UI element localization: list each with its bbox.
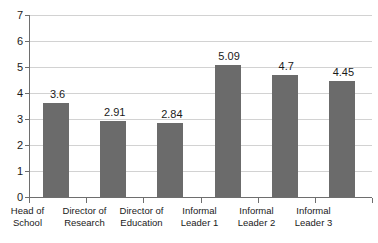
category-label-line-2: Research <box>56 217 113 229</box>
y-tick-label-7: 7 <box>1 10 23 21</box>
category-label-head-of-school: Head of School <box>0 205 56 229</box>
category-label-line-1: Director of <box>56 205 113 217</box>
category-label-director-of-education: Director of Education <box>113 205 170 229</box>
bar-informal-leader-2[interactable] <box>272 75 298 197</box>
x-tick-2 <box>143 198 144 203</box>
gridline-2 <box>29 145 372 146</box>
x-tick-0 <box>29 198 30 203</box>
bar-value-director-of-research: 2.91 <box>92 107 138 118</box>
category-label-director-of-research: Director of Research <box>56 205 113 229</box>
gridline-3 <box>29 119 372 120</box>
bar-value-informal-leader-1: 5.09 <box>206 51 252 62</box>
y-axis-line <box>29 15 30 198</box>
x-tick-6 <box>372 198 373 203</box>
gridline-6 <box>29 41 372 42</box>
category-label-line-1: Director of <box>113 205 170 217</box>
category-label-informal-leader-1: Informal Leader 1 <box>171 205 228 229</box>
bar-chart: 7 6 5 4 3 2 1 0 <box>0 0 378 243</box>
category-label-line-1: Informal <box>171 205 228 217</box>
x-tick-1 <box>86 198 87 203</box>
x-tick-3 <box>201 198 202 203</box>
x-tick-5 <box>315 198 316 203</box>
bar-director-of-education[interactable] <box>157 123 183 197</box>
bar-informal-leader-3[interactable] <box>329 81 355 197</box>
category-label-line-2: Leader 3 <box>285 217 342 229</box>
bar-value-informal-leader-3: 4.45 <box>320 67 366 78</box>
category-label-line-2: Leader 1 <box>171 217 228 229</box>
y-tick-label-4: 4 <box>1 88 23 99</box>
y-tick-label-6: 6 <box>1 36 23 47</box>
y-tick-label-3: 3 <box>1 114 23 125</box>
y-tick-label-2: 2 <box>1 140 23 151</box>
gridline-7 <box>29 15 372 16</box>
bar-director-of-research[interactable] <box>100 121 126 197</box>
x-tick-4 <box>258 198 259 203</box>
category-label-line-2: Education <box>113 217 170 229</box>
bar-value-head-of-school: 3.6 <box>35 89 81 100</box>
plot-area <box>29 15 372 197</box>
category-label-line-1: Head of <box>0 205 56 217</box>
y-tick-label-1: 1 <box>1 166 23 177</box>
category-label-line-1: Informal <box>285 205 342 217</box>
gridline-1 <box>29 171 372 172</box>
category-label-line-1: Informal <box>228 205 285 217</box>
category-label-line-2: Leader 2 <box>228 217 285 229</box>
category-label-informal-leader-2: Informal Leader 2 <box>228 205 285 229</box>
bar-value-director-of-education: 2.84 <box>149 109 195 120</box>
bar-value-informal-leader-2: 4.7 <box>263 61 309 72</box>
bar-head-of-school[interactable] <box>43 103 69 197</box>
y-tick-label-5: 5 <box>1 62 23 73</box>
category-label-line-2: School <box>0 217 56 229</box>
y-tick-label-0: 0 <box>1 192 23 203</box>
bar-informal-leader-1[interactable] <box>215 65 241 197</box>
category-label-informal-leader-3: Informal Leader 3 <box>285 205 342 229</box>
